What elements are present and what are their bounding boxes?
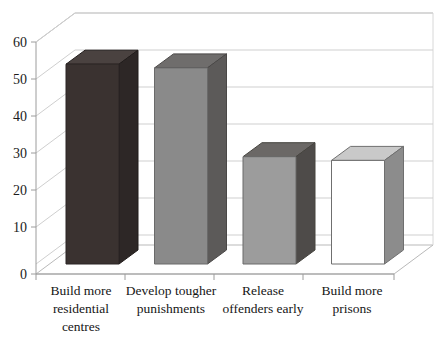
x-label-release-offenders-early: Release offenders early (222, 283, 303, 316)
label-line: Release (242, 283, 284, 298)
bar-build-more-residential-centres[interactable] (66, 50, 138, 264)
label-line: residential (53, 301, 109, 316)
x-label-build-more-prisons: Build more prisons (321, 283, 382, 316)
label-line: prisons (332, 301, 371, 316)
chart-canvas: 60 50 40 30 20 10 0 (0, 0, 443, 342)
bar-front-face (155, 68, 208, 264)
bar-front-face (66, 64, 119, 264)
bar-side-face (385, 146, 404, 264)
label-line: Build more (50, 283, 111, 298)
label-line: centres (62, 319, 100, 334)
y-tick-label-0: 0 (20, 267, 27, 282)
y-tick-label-30: 30 (13, 146, 27, 161)
bar-build-more-prisons[interactable] (332, 146, 404, 264)
y-tick-label-20: 20 (13, 183, 27, 198)
label-line: punishments (137, 301, 205, 316)
y-tick-label-60: 60 (13, 35, 27, 50)
y-axis: 60 50 40 30 20 10 0 (13, 35, 36, 282)
x-label-build-more-residential-centres: Build more residential centres (50, 283, 111, 334)
y-tick-label-50: 50 (13, 72, 27, 87)
label-line: offenders early (222, 301, 303, 316)
x-axis-category-labels: Build more residential centres Develop t… (50, 283, 382, 334)
label-line: Build more (321, 283, 382, 298)
y-tick-label-40: 40 (13, 109, 27, 124)
x-axis (36, 274, 394, 280)
bar-front-face (332, 160, 385, 264)
bar-front-face (243, 157, 296, 264)
y-tick-label-10: 10 (13, 220, 27, 235)
bar-side-face (208, 54, 227, 264)
bar-side-face (296, 143, 315, 264)
x-label-develop-tougher-punishments: Develop tougher punishments (126, 283, 217, 316)
bar-develop-tougher-punishments[interactable] (155, 54, 227, 264)
bar-chart: 60 50 40 30 20 10 0 (0, 0, 443, 342)
bar-side-face (119, 50, 138, 264)
label-line: Develop tougher (126, 283, 217, 298)
bar-release-offenders-early[interactable] (243, 143, 315, 264)
